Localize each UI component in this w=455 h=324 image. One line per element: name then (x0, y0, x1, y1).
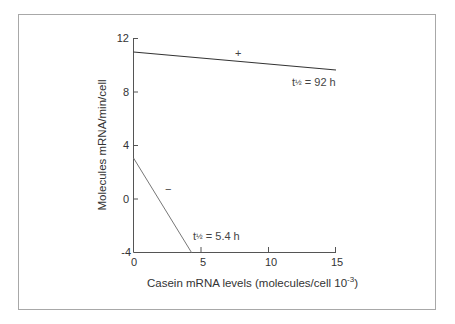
x-tick-0: 0 (131, 256, 137, 268)
half-life-minus: t½ = 5.4 h (193, 230, 240, 242)
series-minus-line (134, 158, 192, 253)
y-tick-neg4: -4 (121, 246, 131, 258)
plus-label: + (235, 47, 241, 59)
half-life-plus: t½ = 92 h (292, 76, 336, 88)
y-axis-title: Molecules mRNA/min/cell (96, 79, 108, 210)
minus-label: − (165, 183, 171, 195)
y-tick-8: 8 (123, 86, 129, 98)
y-tick-12: 12 (117, 32, 129, 44)
x-tick-15: 15 (331, 256, 343, 268)
y-tick-4: 4 (123, 139, 129, 151)
x-tick-10: 10 (265, 256, 277, 268)
x-axis-title: Casein mRNA levels (molecules/cell 10-3) (147, 275, 358, 289)
y-axis (134, 38, 139, 253)
x-tick-5: 5 (200, 256, 206, 268)
y-tick-0: 0 (123, 193, 129, 205)
x-axis (134, 247, 337, 253)
chart: 12 8 4 0 -4 0 5 10 15 + − t½ = 92 h t½ =… (0, 0, 455, 324)
